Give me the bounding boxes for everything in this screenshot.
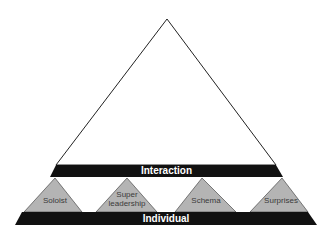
super-leadership-line1: Super xyxy=(116,190,137,199)
super-leadership-label: Super leadership xyxy=(97,190,157,208)
sub-triangle-surprises xyxy=(250,178,308,212)
sub-triangle-soloist xyxy=(24,178,82,212)
schema-label: Schema xyxy=(176,196,236,205)
surprises-label: Surprises xyxy=(253,196,309,205)
soloist-label: Soloist xyxy=(28,196,82,205)
super-leadership-line2: leadership xyxy=(109,199,146,208)
sub-triangle-schema xyxy=(175,178,236,212)
interaction-band-label: Interaction xyxy=(50,165,283,177)
main-triangle xyxy=(56,19,276,165)
individual-band-label: Individual xyxy=(15,213,317,225)
